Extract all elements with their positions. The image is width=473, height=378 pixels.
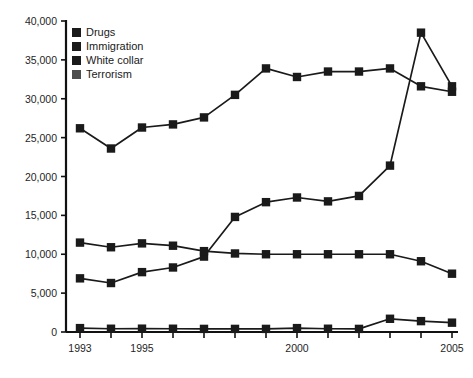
legend-item: Terrorism [72, 67, 143, 81]
x-axis-tick-label: 2000 [285, 342, 309, 354]
data-point-marker [200, 113, 208, 121]
data-point-marker [138, 268, 146, 276]
legend-item: Drugs [72, 25, 143, 39]
y-axis-tick-label: 5,000 [31, 287, 57, 299]
data-point-marker [231, 325, 239, 333]
legend-swatch-icon [72, 70, 81, 79]
x-axis-tick-label: 1993 [68, 342, 92, 354]
data-point-marker [107, 325, 115, 333]
data-point-marker [448, 269, 456, 277]
data-point-marker [417, 317, 425, 325]
data-point-marker [324, 250, 332, 258]
y-axis-tick-label: 15,000 [25, 209, 57, 221]
data-point-marker [324, 325, 332, 333]
legend-item-label: Terrorism [86, 68, 132, 81]
data-point-marker [386, 161, 394, 169]
data-point-marker [231, 213, 239, 221]
data-point-marker [107, 279, 115, 287]
data-point-marker [355, 325, 363, 333]
data-point-marker [262, 250, 270, 258]
series-white-collar [76, 238, 456, 277]
data-point-marker [293, 250, 301, 258]
y-axis-tick-label: 0 [51, 326, 57, 338]
data-point-marker [169, 325, 177, 333]
data-point-marker [107, 144, 115, 152]
data-point-marker [262, 198, 270, 206]
data-point-marker [355, 67, 363, 75]
legend-item-label: Drugs [86, 26, 115, 39]
data-point-marker [138, 324, 146, 332]
data-point-marker [262, 64, 270, 72]
data-point-marker [107, 243, 115, 251]
x-axis-tick-label: 1995 [130, 342, 154, 354]
data-point-marker [138, 123, 146, 131]
data-point-marker [448, 82, 456, 90]
data-point-marker [293, 324, 301, 332]
line-chart: 05,00010,00015,00020,00025,00030,00035,0… [0, 0, 473, 378]
data-point-marker [355, 250, 363, 258]
data-point-marker [417, 257, 425, 265]
x-axis-tick-label: 2005 [440, 342, 464, 354]
data-point-marker [76, 124, 84, 132]
y-axis-tick-label: 20,000 [25, 171, 57, 183]
data-point-marker [200, 325, 208, 333]
data-point-marker [448, 318, 456, 326]
y-axis-tick-label: 30,000 [25, 93, 57, 105]
chart-plot-area: 05,00010,00015,00020,00025,00030,00035,0… [0, 0, 473, 378]
data-point-marker [200, 247, 208, 255]
data-point-marker [76, 238, 84, 246]
data-point-marker [293, 193, 301, 201]
y-axis-tick-label: 35,000 [25, 54, 57, 66]
y-axis-tick-label: 10,000 [25, 248, 57, 260]
data-point-marker [169, 120, 177, 128]
data-point-marker [417, 28, 425, 36]
legend-item: Immigration [72, 39, 143, 53]
legend-swatch-icon [72, 42, 81, 51]
legend-swatch-icon [72, 56, 81, 65]
data-point-marker [386, 315, 394, 323]
legend-item: White collar [72, 53, 143, 67]
data-point-marker [324, 197, 332, 205]
data-point-marker [355, 192, 363, 200]
data-point-marker [231, 91, 239, 99]
data-point-marker [76, 324, 84, 332]
data-point-marker [293, 73, 301, 81]
data-point-marker [417, 82, 425, 90]
data-point-marker [231, 249, 239, 257]
data-point-marker [386, 64, 394, 72]
data-point-marker [169, 242, 177, 250]
legend-item-label: Immigration [86, 40, 143, 53]
legend-item-label: White collar [86, 54, 143, 67]
x-axis: 1993199520002005 [66, 332, 464, 354]
data-point-marker [324, 67, 332, 75]
data-point-marker [262, 325, 270, 333]
data-point-marker [138, 239, 146, 247]
chart-legend: DrugsImmigrationWhite collarTerrorism [72, 25, 143, 81]
series-terrorism [76, 315, 456, 334]
data-point-marker [386, 250, 394, 258]
legend-swatch-icon [72, 28, 81, 37]
data-point-marker [169, 263, 177, 271]
data-point-marker [76, 274, 84, 282]
y-axis-tick-label: 25,000 [25, 132, 57, 144]
y-axis: 05,00010,00015,00020,00025,00030,00035,0… [25, 15, 66, 338]
y-axis-tick-label: 40,000 [25, 15, 57, 27]
